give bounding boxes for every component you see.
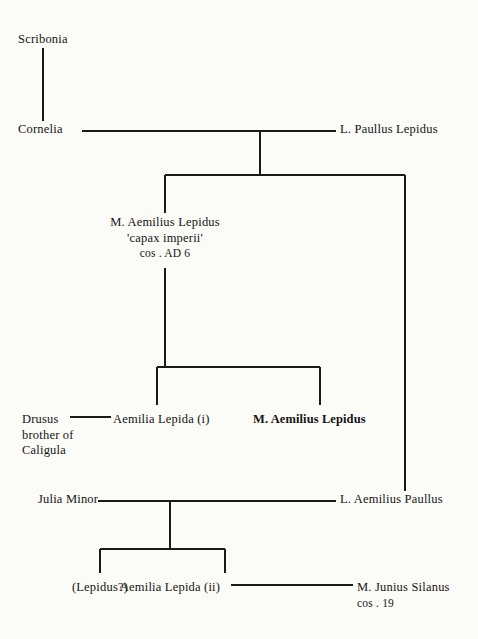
node-drusus-brother-of-caligula-line-2: brother of xyxy=(22,428,74,444)
node-m-junius-silanus-line-2: cos . 19 xyxy=(357,596,450,612)
node-l-paullus-lepidus: L. Paullus Lepidus xyxy=(340,122,438,138)
node-julia-minor: Julia Minor xyxy=(38,492,98,508)
node-m-aemilius-lepidus-line-1: M. Aemilius Lepidus xyxy=(253,412,366,428)
node-m-junius-silanus: M. Junius Silanuscos . 19 xyxy=(357,580,450,611)
node-m-aemilius-lepidus-capax-imperii-line-3: cos . AD 6 xyxy=(110,246,220,262)
node-m-aemilius-lepidus-capax-imperii-line-1: M. Aemilius Lepidus xyxy=(110,215,220,231)
node-aemilia-lepida-ii: Aemilia Lepida (ii) xyxy=(120,580,220,596)
node-l-paullus-lepidus-line-1: L. Paullus Lepidus xyxy=(340,122,438,138)
node-scribonia: Scribonia xyxy=(18,32,68,48)
connector-lines-layer xyxy=(0,0,478,639)
node-aemilia-lepida-i: Aemilia Lepida (i) xyxy=(113,412,210,428)
family-tree-diagram: ScriboniaCorneliaL. Paullus LepidusM. Ae… xyxy=(0,0,478,639)
node-aemilia-lepida-i-line-1: Aemilia Lepida (i) xyxy=(113,412,210,428)
node-cornelia: Cornelia xyxy=(18,122,63,138)
node-m-aemilius-lepidus: M. Aemilius Lepidus xyxy=(253,412,366,428)
node-m-aemilius-lepidus-capax-imperii-line-2: 'capax imperii' xyxy=(110,231,220,247)
node-scribonia-line-1: Scribonia xyxy=(18,32,68,48)
node-julia-minor-line-1: Julia Minor xyxy=(38,492,98,508)
node-drusus-brother-of-caligula: Drususbrother ofCaligula xyxy=(22,412,74,459)
node-m-junius-silanus-line-1: M. Junius Silanus xyxy=(357,580,450,596)
node-l-aemilius-paullus-line-1: L. Aemilius Paullus xyxy=(340,492,443,508)
node-drusus-brother-of-caligula-line-1: Drusus xyxy=(22,412,74,428)
node-drusus-brother-of-caligula-line-3: Caligula xyxy=(22,443,74,459)
node-l-aemilius-paullus: L. Aemilius Paullus xyxy=(340,492,443,508)
node-m-aemilius-lepidus-capax-imperii: M. Aemilius Lepidus'capax imperii'cos . … xyxy=(110,215,220,262)
node-aemilia-lepida-ii-line-1: Aemilia Lepida (ii) xyxy=(120,580,220,596)
node-cornelia-line-1: Cornelia xyxy=(18,122,63,138)
